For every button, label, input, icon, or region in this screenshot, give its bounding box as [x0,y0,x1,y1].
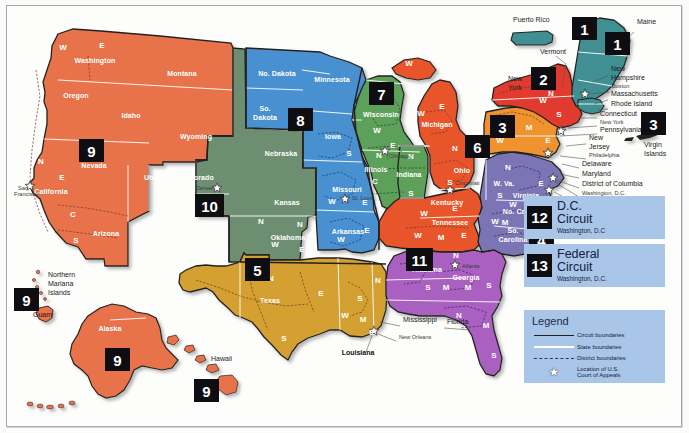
callout-label: New York [600,119,624,125]
district-letter: N [297,220,303,229]
region-puerto-rico[interactable] [511,31,553,45]
legend-row-circuit: Circuit boundaries [531,331,658,340]
district-letter: N [505,163,511,172]
state-label: Washington [75,57,116,65]
circuit-badge-ny-2[interactable]: 2 [531,67,556,90]
district-letter: W [491,217,499,226]
district-letter: S [375,199,381,208]
state-label: Iowa [325,133,341,140]
district-letter: W [420,209,428,218]
callout-label: District of Columbia [582,180,643,187]
state-label: Kentucky [431,199,463,207]
callout-label: Puerto Rico [513,16,550,23]
state-label: Georgia [452,274,479,282]
callout-label: Pennsylvania [600,126,642,134]
district-letter: W [59,43,67,52]
callout-label: Islands [644,150,667,157]
district-letter: W [373,126,381,135]
state-label: Kansas [274,199,300,206]
district-letter: M [526,123,533,132]
badge-number: 1 [580,21,588,38]
circuit-badge-mi-6[interactable]: 6 [465,135,490,158]
circuit-badge-sd-8[interactable]: 8 [288,108,313,131]
state-label: Michigan [421,121,452,129]
state-label: W. Va. [494,180,515,187]
callout-label: Delaware [582,160,612,167]
district-letter: E [538,179,544,188]
callout-label: Cincinnati [455,180,480,186]
region-circuit-5-south[interactable] [179,253,387,360]
circuit-badge-al-11[interactable]: 11 [406,248,433,271]
dc-circuit-name-line2: Circuit [557,213,605,226]
district-letter: E [99,41,105,50]
state-label: Colorado [182,174,214,181]
badge-number: 8 [296,112,304,129]
badge-number: 2 [539,71,547,88]
legend-label-state: State boundaries [577,344,622,351]
callout-label: Florida [447,318,469,325]
callout-label: Hawaii [211,355,232,362]
state-boundary-line-icon [531,343,577,352]
region-circuit-11-southeast[interactable] [386,250,506,376]
district-letter: W [405,59,413,68]
circuit-badge-pa-3[interactable]: 3 [490,115,515,138]
district-letter: E [364,226,370,235]
badge-number: 9 [113,352,121,369]
state-label: Idaho [121,112,140,119]
district-letter: M [438,233,445,242]
court-star-icon: ★ [531,368,577,377]
callout-label: Mariana [48,280,73,287]
callout-label: Denver [196,185,214,191]
district-letter: S [73,236,79,245]
state-label: Tennessee [432,219,469,226]
state-label: Texas [260,297,280,304]
district-letter: W [539,96,547,105]
callout-label: York [508,84,522,91]
circuit-badge-tx-5[interactable]: 5 [245,258,270,281]
district-letter: S [281,334,287,343]
circuit-badge-ak-9[interactable]: 9 [105,348,130,371]
legend-label-court-line2: Court of Appeals [577,372,621,379]
badge-number: 3 [498,119,506,136]
circuit-badge-nmi-9[interactable]: 9 [14,288,39,311]
state-label: Arkansas [332,228,364,235]
badge-number: 9 [22,292,30,309]
state-label: Oregon [63,92,89,100]
district-letter: N [258,217,264,226]
dc-circuit-panel[interactable]: 12 D.C. Circuit Washington, D.C [524,196,665,239]
district-letter: N [452,144,458,153]
district-letter: W [509,200,517,209]
callout-label: New [589,134,604,141]
badge-number: 9 [87,143,95,160]
callout-label: Atlanta [462,263,480,269]
district-letter: N [548,89,554,98]
callout-label: Francisco [14,191,38,197]
judicial-circuits-map-screenshot: WashingtonOregonIdahoMontanaNevadaCalifo… [0,0,689,433]
district-letter: E [318,289,324,298]
district-letter: M [443,283,450,292]
badge-number: 1 [613,36,621,53]
circuit-badge-nv-9[interactable]: 9 [79,139,104,162]
district-letter: S [491,351,497,360]
district-letter: S [556,110,562,119]
circuit-badge-ne-1[interactable]: 1 [605,32,630,55]
region-circuit-6-upper-peninsula[interactable] [392,58,436,80]
callout-label: Philadelphia [589,152,620,158]
callout-label: Virgin [644,141,662,149]
district-letter: S [425,283,431,292]
circuit-badge-pr-1[interactable]: 1 [572,17,597,40]
federal-circuit-panel[interactable]: 13 Federal Circuit Washington, D.C. [524,244,665,287]
callout-label: St. Louis [352,195,374,201]
federal-circuit-name-line2: Circuit [557,261,607,274]
callout-label: Guam [33,311,52,318]
federal-circuit-location: Washington, D.C. [557,276,607,283]
dc-circuit-number: 12 [527,206,552,229]
circuit-badge-wi-7[interactable]: 7 [369,82,394,105]
legend-row-state: State boundaries [531,343,658,352]
circuit-badge-co-10[interactable]: 10 [195,194,224,217]
district-letter: S [497,191,503,200]
circuit-badge-hi-9[interactable]: 9 [194,379,219,402]
circuit-badge-vi-3[interactable]: 3 [641,112,666,135]
region-aleutian-islands[interactable] [27,401,75,409]
district-letter: W [197,300,205,309]
